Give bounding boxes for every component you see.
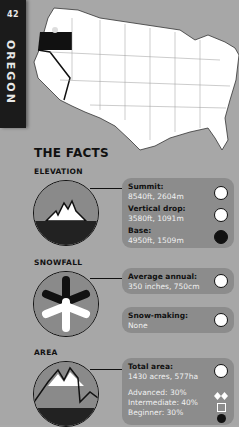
facts-title: THE FACTS bbox=[34, 146, 109, 160]
total-area-label: Total area: bbox=[128, 362, 228, 372]
area-label: AREA bbox=[34, 348, 58, 357]
snowfall-label: SNOWFALL bbox=[34, 258, 82, 267]
area-badge bbox=[33, 361, 99, 427]
intermediate-runs: Intermediate: 40% bbox=[128, 398, 228, 408]
square-icon bbox=[217, 403, 226, 412]
circle-icon bbox=[217, 414, 226, 423]
snowfall-badge bbox=[33, 271, 99, 337]
double-diamond-icon bbox=[214, 392, 228, 400]
vertical-drop-value: 3580ft, 1091m bbox=[128, 214, 228, 224]
total-area-value: 1430 acres, 577ha bbox=[128, 372, 228, 382]
snow-making-value: None bbox=[128, 321, 228, 331]
average-annual-value: 350 inches, 750cm bbox=[128, 282, 228, 292]
elevation-connector bbox=[90, 188, 122, 189]
total-area-icon bbox=[214, 364, 228, 378]
snowflake-icon bbox=[214, 313, 228, 327]
vertical-drop-label: Vertical drop: bbox=[128, 204, 228, 214]
vertical-drop-icon bbox=[214, 208, 228, 222]
summit-label: Summit: bbox=[128, 182, 228, 192]
state-tab: 42 OREGON bbox=[0, 0, 26, 128]
summit-value: 8540ft, 2604m bbox=[128, 192, 228, 202]
beginner-runs: Beginner: 30% bbox=[128, 408, 228, 418]
area-connector bbox=[90, 369, 122, 370]
snowfall-average-panel: Average annual: 350 inches, 750cm bbox=[122, 268, 234, 294]
advanced-runs: Advanced: 30% bbox=[128, 388, 228, 398]
snow-depth-icon bbox=[214, 274, 228, 288]
snowfall-connector bbox=[90, 278, 122, 279]
elevation-badge bbox=[33, 180, 99, 246]
page-number: 42 bbox=[0, 10, 26, 19]
base-label: Base: bbox=[128, 226, 228, 236]
us-map bbox=[30, 0, 239, 160]
area-panel: Total area: 1430 acres, 577ha Advanced: … bbox=[122, 358, 234, 425]
snow-making-label: Snow-making: bbox=[128, 311, 228, 321]
elevation-panel: Summit: 8540ft, 2604m Vertical drop: 358… bbox=[122, 178, 234, 248]
summit-icon bbox=[214, 186, 228, 200]
snow-making-panel: Snow-making: None bbox=[122, 307, 234, 333]
base-value: 4950ft, 1509m bbox=[128, 236, 228, 246]
elevation-label: ELEVATION bbox=[34, 167, 83, 176]
state-name: OREGON bbox=[4, 40, 17, 105]
oregon-highlight bbox=[38, 32, 72, 50]
average-annual-label: Average annual: bbox=[128, 272, 228, 282]
base-icon bbox=[214, 230, 228, 244]
